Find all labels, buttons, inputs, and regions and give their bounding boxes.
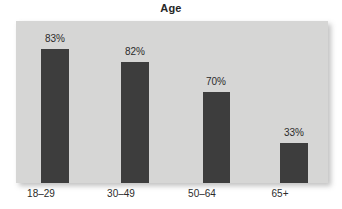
bar-50-64	[203, 92, 230, 183]
chart-title: Age	[0, 2, 342, 14]
plot-panel: 83% 82% 70% 33%	[16, 21, 328, 183]
plot-area: 83% 82% 70% 33%	[16, 21, 328, 183]
bar-30-49	[121, 62, 149, 183]
category-label-18-29: 18–29	[17, 188, 65, 199]
bar-value-65-plus: 33%	[274, 127, 314, 138]
bar-65-plus	[280, 143, 308, 183]
category-label-50-64: 50–64	[178, 188, 226, 199]
bar-value-18-29: 83%	[35, 33, 75, 44]
bar-18-29	[41, 49, 69, 183]
category-label-30-49: 30–49	[97, 188, 145, 199]
category-label-65-plus: 65+	[256, 188, 304, 199]
bar-value-50-64: 70%	[196, 76, 236, 87]
bar-value-30-49: 82%	[115, 46, 155, 57]
bar-chart-figure: Age 83% 82% 70% 33% 18–29 30–49 50–64 65…	[0, 0, 342, 209]
